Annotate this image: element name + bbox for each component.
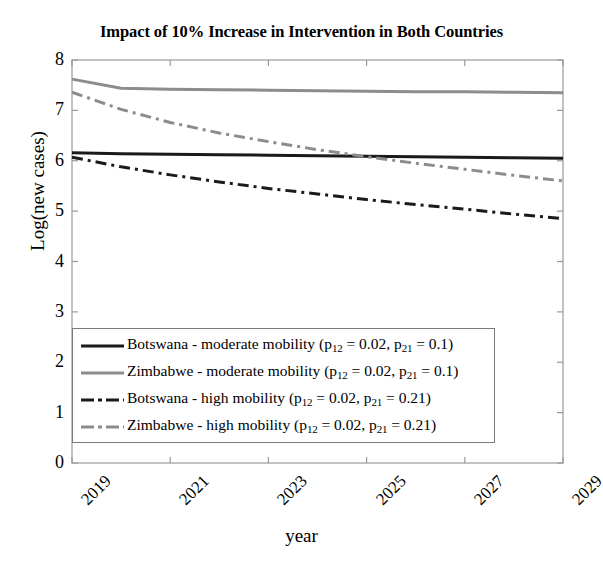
- legend-item: Botswana - moderate mobility (p12 = 0.02…: [73, 332, 494, 359]
- y-tick-label: 1: [34, 403, 64, 421]
- y-tick-label: 2: [34, 352, 64, 370]
- legend-label: Zimbabwe - moderate mobility (p12 = 0.02…: [127, 363, 458, 383]
- y-axis-label-wrap: Log(new cases): [27, 91, 49, 291]
- series-line-2: [72, 79, 563, 93]
- legend-item: Botswana - high mobility (p12 = 0.02, p2…: [73, 386, 494, 413]
- legend-item: Zimbabwe - high mobility (p12 = 0.02, p2…: [73, 413, 494, 440]
- legend-line-sample: [80, 393, 125, 407]
- x-axis-label: year: [285, 525, 318, 546]
- y-tick-label: 8: [34, 50, 64, 68]
- legend-label: Botswana - high mobility (p12 = 0.02, p2…: [127, 390, 431, 410]
- legend-label: Botswana - moderate mobility (p12 = 0.02…: [127, 336, 453, 356]
- y-tick-label: 0: [34, 453, 64, 471]
- series-line-1: [72, 153, 563, 159]
- legend-line-sample: [80, 339, 125, 353]
- legend-line-sample: [80, 420, 125, 434]
- chart-figure: Impact of 10% Increase in Intervention i…: [0, 0, 603, 564]
- y-tick-label: 3: [34, 302, 64, 320]
- legend-line-sample: [80, 366, 125, 380]
- series-line-4: [72, 92, 563, 181]
- y-axis-label: Log(new cases): [27, 131, 48, 251]
- legend-item: Zimbabwe - moderate mobility (p12 = 0.02…: [73, 359, 494, 386]
- legend-label: Zimbabwe - high mobility (p12 = 0.02, p2…: [127, 417, 436, 437]
- x-axis-label-wrap: year: [0, 525, 603, 547]
- series-line-3: [72, 157, 563, 218]
- data-series-group: [72, 79, 563, 219]
- chart-legend: Botswana - moderate mobility (p12 = 0.02…: [72, 328, 495, 443]
